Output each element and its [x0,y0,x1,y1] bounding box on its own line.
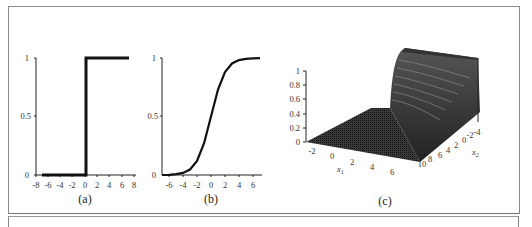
svg-text:6: 6 [120,180,124,190]
x1-axis-label: x1 [336,164,344,175]
panel-b-sigmoid-chart: 1 0.5 0 -6-4-20246 (b) [147,53,262,206]
svg-text:4: 4 [446,145,451,155]
panel-a-step-chart: 1 0.5 0 -8-6-4-202468 (a) [20,53,136,206]
svg-text:-4: -4 [473,127,481,137]
svg-text:8: 8 [428,154,432,164]
svg-text:6: 6 [251,180,255,190]
svg-text:0: 0 [25,170,29,180]
svg-text:0.8: 0.8 [289,80,300,90]
svg-text:10: 10 [418,159,427,169]
svg-text:8: 8 [132,180,136,190]
svg-text:0: 0 [152,170,156,180]
svg-text:2: 2 [350,157,354,167]
caption-b: (b) [204,192,218,206]
svg-text:1: 1 [25,53,29,63]
svg-text:-6: -6 [165,180,172,190]
caption-a: (a) [78,192,91,206]
svg-text:0: 0 [209,180,213,190]
svg-text:0.2: 0.2 [289,123,300,133]
svg-text:0: 0 [330,151,334,161]
svg-text:-8: -8 [32,180,39,190]
svg-text:2: 2 [454,140,458,150]
svg-text:0: 0 [83,180,87,190]
svg-text:1: 1 [152,53,156,63]
svg-text:6: 6 [438,150,442,160]
svg-text:0.5: 0.5 [147,111,158,121]
svg-text:2: 2 [223,180,227,190]
svg-text:-2: -2 [68,180,75,190]
svg-text:6: 6 [390,167,394,177]
svg-text:4: 4 [107,180,112,190]
svg-text:4: 4 [370,162,375,172]
svg-text:-2: -2 [193,180,200,190]
svg-text:0.4: 0.4 [289,109,300,119]
svg-text:0.5: 0.5 [20,111,31,121]
svg-text:4: 4 [237,180,242,190]
caption-c: (c) [378,194,391,208]
svg-text:-2: -2 [308,146,315,156]
svg-text:-4: -4 [56,180,64,190]
svg-text:1: 1 [296,66,300,76]
x2-axis-label: x2 [471,147,479,158]
svg-text:0: 0 [296,137,300,147]
svg-text:2: 2 [95,180,99,190]
svg-text:0.6: 0.6 [289,94,300,104]
panel-c-surface-chart: 10.80.60.40.20 -20246 x1 1086420-2-4 x2 … [289,48,481,208]
svg-text:-4: -4 [179,180,187,190]
svg-text:-6: -6 [44,180,51,190]
figure-canvas: 1 0.5 0 -8-6-4-202468 (a) 1 0.5 0 -6-4-2… [0,0,532,227]
